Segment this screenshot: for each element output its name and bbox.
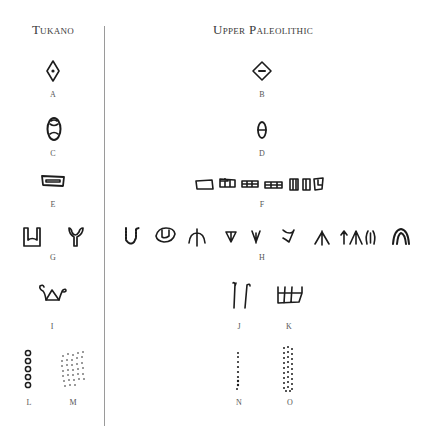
glyph-n-dot-line-icon	[233, 350, 243, 392]
label-j: J	[237, 322, 240, 331]
glyph-e-rectangle-icon	[40, 174, 66, 188]
glyph-g-u-shape-icon	[22, 226, 42, 248]
label-h: H	[259, 253, 265, 262]
label-b: B	[259, 90, 264, 99]
column-divider	[104, 26, 105, 426]
label-o: O	[287, 398, 293, 407]
label-a: A	[50, 90, 56, 99]
glyph-m-dot-grid-icon	[58, 350, 90, 392]
glyph-j-vertical-hooks-icon	[229, 280, 253, 310]
label-i: I	[51, 322, 54, 331]
glyph-k-comb-ladder-icon	[275, 283, 305, 305]
label-m: M	[69, 398, 76, 407]
heading-upper-paleolithic: Upper Paleolithic	[213, 22, 313, 38]
label-k: K	[286, 322, 292, 331]
label-c: C	[50, 149, 55, 158]
glyph-f-segmented-rectangles-icon	[194, 176, 334, 192]
label-l: L	[27, 398, 32, 407]
label-e: E	[51, 200, 56, 209]
glyph-a-diamond-dot-icon	[45, 60, 61, 82]
label-f: F	[260, 200, 264, 209]
label-d: D	[259, 149, 265, 158]
glyph-o-dense-dots-icon	[281, 344, 297, 394]
glyph-h-signs-row-icon	[118, 224, 423, 250]
heading-tukano: Tukano	[32, 22, 74, 38]
label-n: N	[236, 398, 242, 407]
glyph-l-circle-column-icon	[22, 349, 34, 391]
label-g: G	[50, 253, 56, 262]
glyph-d-oval-bar-icon	[256, 120, 268, 140]
glyph-c-oval-icon	[46, 116, 62, 142]
glyph-g-y-shape-icon	[66, 225, 86, 249]
glyph-b-diamond-dash-icon	[251, 61, 273, 81]
glyph-i-triangle-spirals-icon	[37, 283, 69, 303]
